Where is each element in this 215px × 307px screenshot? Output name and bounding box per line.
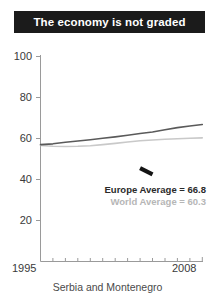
plot-canvas (0, 0, 215, 307)
legend-label-world-average: World Average = 60.3 (105, 196, 206, 208)
y-tick-label-40: 40 (4, 174, 32, 185)
y-tick-label-60: 60 (4, 133, 32, 144)
x-tick-label-start: 1995 (12, 263, 36, 274)
y-tick-label-80: 80 (4, 92, 32, 103)
series-line-country (140, 168, 152, 174)
plot-area: 100 80 60 40 20 1995 2008 Serbia and Mon… (0, 0, 215, 307)
y-tick-label-100: 100 (4, 51, 32, 62)
legend-label-europe-average: Europe Average = 66.8 (105, 184, 206, 196)
x-tick-label-end: 2008 (172, 263, 196, 274)
x-tick-marks (41, 257, 203, 262)
chart-figure: The economy is not graded (0, 0, 215, 307)
chart-legend: Europe Average = 66.8 World Average = 60… (105, 184, 206, 208)
series-line-europe-average (41, 125, 203, 145)
y-tick-label-20: 20 (4, 215, 32, 226)
x-axis-title: Serbia and Montenegro (0, 281, 215, 293)
y-tick-marks (36, 57, 41, 221)
